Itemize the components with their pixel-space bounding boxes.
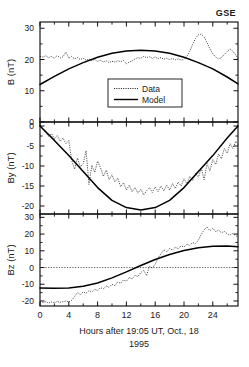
axis-title-By: By (nT) [5, 152, 16, 183]
panel-frame-By [40, 122, 238, 214]
ytick-label-B-20: 20 [25, 55, 35, 65]
ytick-label-B-10: 10 [25, 86, 35, 96]
xtick-label-0: 0 [37, 310, 42, 320]
ytick-label-By--20: -20 [22, 201, 35, 211]
panel-frame-Bz [40, 214, 238, 306]
figure-container: 0102030B (nT)0-5-10-15-20By (nT)3020100-… [0, 0, 249, 367]
ytick-label-B-30: 30 [25, 23, 35, 33]
legend-label-data: Data [142, 84, 160, 94]
x-axis-title-line2: 1995 [129, 339, 149, 349]
ytick-label-By-0: 0 [29, 121, 34, 131]
ytick-label-By--5: -5 [26, 141, 34, 151]
panel-B: 0102030B (nT) [5, 22, 238, 127]
xtick-label-16: 16 [150, 310, 160, 320]
ytick-label-Bz-30: 30 [25, 212, 35, 222]
ytick-label-By--10: -10 [22, 161, 35, 171]
ytick-label-Bz-0: 0 [29, 263, 34, 273]
series-B-data [40, 34, 238, 64]
ytick-label-Bz-20: 20 [25, 229, 35, 239]
xtick-label-4: 4 [66, 310, 71, 320]
ytick-label-Bz--20: -20 [22, 296, 35, 306]
ytick-label-Bz-10: 10 [25, 246, 35, 256]
x-axis-title-line1: Hours after 19:05 UT, Oct., 18 [79, 326, 199, 336]
axis-title-Bz: Bz (nT) [5, 244, 16, 275]
panel-Bz: 3020100-10-20Bz (nT) [5, 212, 238, 306]
xtick-label-20: 20 [179, 310, 189, 320]
ytick-label-Bz--10: -10 [22, 279, 35, 289]
xtick-label-8: 8 [95, 310, 100, 320]
three-panel-magnetic-field-chart: 0102030B (nT)0-5-10-15-20By (nT)3020100-… [0, 0, 249, 367]
panel-By: 0-5-10-15-20By (nT) [5, 121, 238, 214]
series-By-model [40, 126, 238, 210]
ytick-label-By--15: -15 [22, 181, 35, 191]
legend: DataModel [108, 79, 182, 107]
axis-title-B: B (nT) [5, 59, 16, 85]
xtick-label-24: 24 [208, 310, 218, 320]
xtick-label-12: 12 [121, 310, 131, 320]
coordinate-system-label: GSE [216, 8, 236, 18]
series-Bz-data [40, 227, 238, 303]
x-axis-labels: 04812162024Hours after 19:05 UT, Oct., 1… [37, 310, 217, 349]
legend-label-model: Model [142, 95, 165, 105]
